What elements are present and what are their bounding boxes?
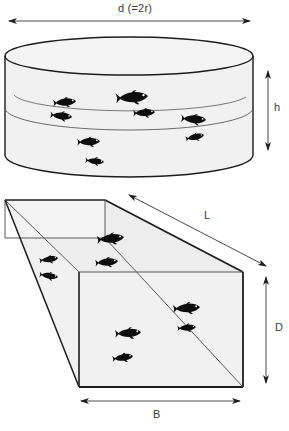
- breadth-label: B: [153, 408, 161, 420]
- diameter-label: d (=2r): [118, 2, 152, 14]
- tank-geometry-drawing: [0, 0, 289, 431]
- depth-label: D: [275, 321, 283, 333]
- height-label: h: [274, 101, 280, 113]
- tank-geometry-figure: d (=2r) h L D B: [0, 0, 289, 431]
- circular-tank: [5, 37, 253, 177]
- cylinder-top-rim: [5, 37, 253, 75]
- rectangular-tank: [5, 200, 243, 387]
- length-label: L: [204, 209, 210, 221]
